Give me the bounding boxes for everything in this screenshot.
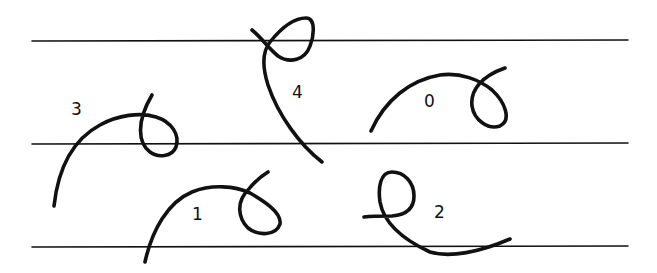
loop-label-2: 2 [434,204,445,221]
guide-line-top [32,40,628,41]
loop-stroke-0 [371,68,506,131]
guide-lines [32,40,628,247]
loop-diagram: 0 1 2 3 4 [0,0,657,273]
diagram-svg [0,0,657,273]
loop-label-3: 3 [71,101,82,118]
loop-stroke-4 [252,18,322,162]
guide-line-bottom [32,246,628,247]
guide-line-middle [32,143,628,144]
loop-label-4: 4 [292,84,303,101]
loop-label-0: 0 [424,93,435,110]
loop-stroke-1 [145,172,280,262]
loop-label-1: 1 [192,206,203,223]
loop-strokes [54,18,510,262]
